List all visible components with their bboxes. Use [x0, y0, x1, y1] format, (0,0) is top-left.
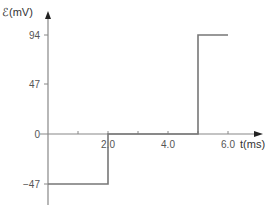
x-axis-label: t(ms) — [240, 138, 265, 150]
y-tick-label-47: 47 — [29, 79, 41, 90]
y-tick-label-94: 94 — [29, 30, 41, 41]
y-tick-label-neg47: −47 — [23, 179, 40, 190]
x-axis-arrow-icon — [254, 131, 263, 137]
emf-step-line — [48, 35, 228, 184]
x-tick-label-6: 6.0 — [221, 139, 235, 150]
y-axis-arrow-icon — [45, 11, 51, 19]
emf-step-chart: ℰ(mV) t(ms) 94 47 0 −47 2.0 4.0 6.0 — [0, 0, 276, 212]
y-tick-label-0: 0 — [34, 129, 40, 140]
x-tick-label-4: 4.0 — [161, 139, 175, 150]
y-axis-label: ℰ(mV) — [2, 6, 33, 18]
